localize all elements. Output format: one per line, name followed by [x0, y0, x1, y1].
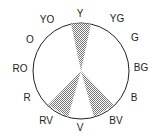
label-bv: BV: [109, 116, 122, 126]
label-b: B: [131, 93, 138, 103]
label-bg: BG: [134, 63, 148, 73]
label-yo: YO: [40, 15, 54, 25]
label-r: R: [23, 93, 30, 103]
label-ro: RO: [13, 64, 28, 74]
label-rv: RV: [39, 116, 53, 126]
label-o: O: [26, 35, 34, 45]
label-y: Y: [77, 9, 84, 19]
label-g: G: [131, 33, 139, 43]
label-v: V: [77, 123, 84, 133]
label-yg: YG: [110, 14, 124, 24]
